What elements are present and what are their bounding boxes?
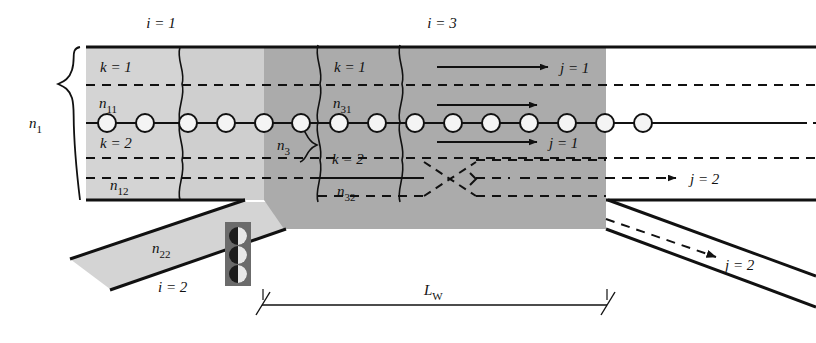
label-n31-sub: 31 — [341, 103, 352, 115]
vehicle-node — [406, 114, 424, 132]
label-n32-sub: 32 — [345, 191, 356, 203]
label-n31-base: n — [333, 95, 341, 111]
vehicle-node — [368, 114, 386, 132]
label-i-eq-1: i = 1 — [146, 15, 175, 31]
vehicle-node — [330, 114, 348, 132]
offramp-lower-edge — [606, 229, 816, 307]
label-k-eq-2-left: k = 2 — [100, 135, 132, 151]
vehicle-circles — [98, 114, 652, 132]
label-LW: LW — [423, 282, 443, 302]
label-n12-base: n — [110, 177, 118, 193]
onramp-shade — [70, 202, 284, 289]
label-n32-base: n — [337, 183, 345, 199]
label-j-eq-2-top: j = 2 — [688, 171, 720, 187]
label-n11-sub: 11 — [107, 103, 118, 115]
label-n12-sub: 12 — [118, 185, 129, 197]
label-n22-base: n — [152, 240, 160, 256]
dim-tick-right — [601, 292, 615, 315]
label-k-eq-1-right: k = 1 — [334, 59, 366, 75]
label-n3-base: n — [277, 137, 285, 153]
label-LW-base: L — [423, 282, 432, 298]
vehicle-node — [292, 114, 310, 132]
dark-shade-ramp-skirt — [264, 200, 606, 229]
label-j-eq-2-bottom: j = 2 — [723, 257, 755, 273]
vehicle-node — [596, 114, 614, 132]
vehicle-node — [136, 114, 154, 132]
label-n3-sub: 3 — [285, 145, 291, 157]
shaded-regions — [70, 47, 606, 289]
label-n1-base: n — [29, 115, 37, 131]
traffic-cell-diagram: i = 1 i = 3 k = 1 k = 2 k = 1 k = 2 n1 n… — [0, 0, 816, 343]
vehicle-node — [520, 114, 538, 132]
vehicle-node — [255, 114, 273, 132]
label-j-eq-1-mid: j = 1 — [547, 135, 578, 151]
vehicle-node — [444, 114, 462, 132]
label-k-eq-2-right: k = 2 — [332, 151, 364, 167]
label-j-eq-1-top: j = 1 — [558, 60, 589, 76]
offramp-middle-edge — [608, 200, 816, 276]
vehicle-node — [98, 114, 116, 132]
label-n1: n1 — [29, 115, 42, 135]
label-LW-sub: W — [432, 290, 443, 302]
offramp — [606, 200, 816, 307]
vehicle-node — [558, 114, 576, 132]
traffic-signal[interactable] — [225, 222, 251, 286]
label-n22-sub: 22 — [160, 248, 171, 260]
diagram-canvas: i = 1 i = 3 k = 1 k = 2 k = 1 k = 2 n1 n… — [0, 0, 816, 343]
label-i-eq-2: i = 2 — [158, 279, 188, 295]
vehicle-node — [482, 114, 500, 132]
label-n11-base: n — [99, 95, 107, 111]
vehicle-node — [179, 114, 197, 132]
label-n1-sub: 1 — [37, 123, 43, 135]
label-k-eq-1-left: k = 1 — [100, 59, 132, 75]
vehicle-node — [634, 114, 652, 132]
vehicle-node — [217, 114, 235, 132]
label-i-eq-3: i = 3 — [427, 15, 456, 31]
offramp-dashed-path — [606, 219, 716, 257]
brace-n1 — [58, 47, 80, 200]
